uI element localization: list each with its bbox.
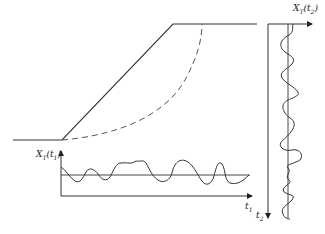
t2-axis-label: t2 — [256, 211, 263, 222]
signal-t2-axes — [268, 24, 312, 218]
diagram-canvas — [0, 0, 325, 234]
signal-t1-curve — [61, 160, 249, 184]
x-t1-axis-label: XT(t1) — [36, 150, 61, 161]
t1-axis-label: t1 — [245, 202, 252, 213]
faint-caption — [62, 224, 262, 230]
slip-surface — [62, 24, 202, 140]
signal-t2-curve — [280, 24, 301, 219]
signal-t1-axes — [61, 151, 252, 196]
x-t2-axis-label: XT(t2) — [293, 4, 318, 15]
